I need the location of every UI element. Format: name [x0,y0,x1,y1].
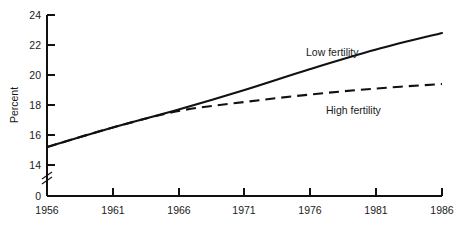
y-tick-label-24: 24 [29,9,41,21]
series-annotation-high-fertility: High fertility [326,104,382,116]
series-line-high-fertility [47,84,442,147]
y-tick-label-20: 20 [29,69,41,81]
chart-svg: 24 22 20 18 16 14 0 Percent 1956 1961 19… [0,0,462,226]
series-line-low-fertility [47,33,442,147]
y-axis-title: Percent [8,87,20,123]
x-tick-label-1956: 1956 [35,204,59,216]
fertility-projection-chart: 24 22 20 18 16 14 0 Percent 1956 1961 19… [0,0,462,226]
x-tick-label-1971: 1971 [232,204,256,216]
x-tick-label-1981: 1981 [364,204,388,216]
x-tick-label-1986: 1986 [430,204,454,216]
y-tick-label-14: 14 [29,159,41,171]
y-tick-label-0: 0 [35,190,41,202]
y-tick-label-18: 18 [29,99,41,111]
y-tick-label-16: 16 [29,129,41,141]
x-tick-label-1976: 1976 [298,204,322,216]
series-annotation-low-fertility: Low fertility [306,46,359,58]
y-tick-label-22: 22 [29,39,41,51]
x-tick-label-1966: 1966 [167,204,191,216]
x-tick-label-1961: 1961 [101,204,125,216]
